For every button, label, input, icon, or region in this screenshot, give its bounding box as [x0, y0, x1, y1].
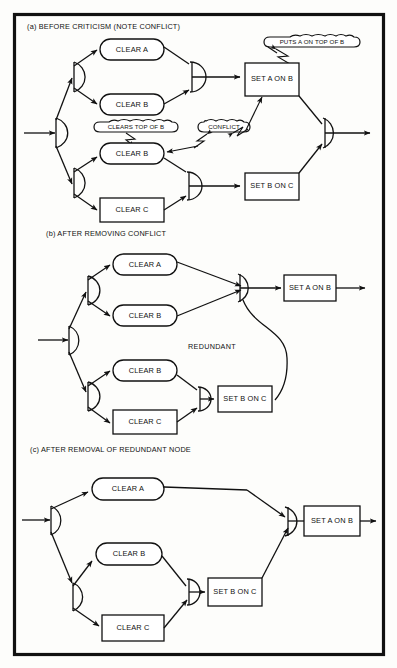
cloud-a-puts-label: PUTS A ON TOP OF B	[280, 38, 345, 45]
panel-a-edge-set-b-final	[299, 144, 322, 173]
panel-c-edge-root-lower	[51, 532, 72, 583]
node-c-set-a-on-b-label: SET A ON B	[311, 516, 353, 525]
node-b-set-b-on-c-label: SET B ON C	[223, 394, 267, 403]
panel-c-edge-clear-b-join	[162, 556, 186, 586]
panel-b-edge-clear-a-join	[177, 262, 241, 286]
panel-a-upper-split-arc	[74, 62, 85, 92]
panel-a-edge-root-upper	[56, 78, 72, 120]
panel-b-edge-to-clear-c	[88, 407, 110, 423]
node-b-clear-b-upper-label: CLEAR B	[129, 311, 162, 320]
plan-network-diagram: (a) BEFORE CRITICISM (NOTE CONFLICT) CLE…	[0, 0, 397, 668]
panel-b-edge-clear-c-join	[177, 408, 197, 422]
panel-a-edge-set-a-final	[299, 96, 322, 124]
node-c-clear-a-label: CLEAR A	[112, 484, 144, 493]
node-c-set-b-on-c-label: SET B ON C	[213, 587, 257, 596]
panel-b-edge-to-clear-b1	[88, 301, 110, 316]
node-c-clear-b-label: CLEAR B	[113, 549, 146, 558]
pointer-a-puts-tail	[268, 47, 277, 53]
panel-c-edge-set-b-final	[262, 528, 288, 578]
panel-a-edge-to-clear-b1	[74, 88, 97, 104]
panel-a-edge-clear-c-join	[164, 196, 186, 210]
node-b-set-a-on-b-label: SET A ON B	[289, 283, 331, 292]
panel-c-edge-clear-a-join	[247, 490, 285, 517]
panel-c-edge-clear-a-run	[164, 487, 247, 490]
panel-b-root-split-arc	[69, 326, 79, 355]
panel-b-edge-root-upper	[69, 292, 86, 329]
panel-a-title: (a) BEFORE CRITICISM (NOTE CONFLICT)	[27, 22, 180, 31]
panel-b-title: (b) AFTER REMOVING CONFLICT	[46, 229, 166, 238]
panel-b-edge-to-clear-a	[88, 265, 110, 280]
node-c-clear-c-label: CLEAR C	[116, 623, 150, 632]
panel-c-edge-to-clear-b	[73, 561, 92, 586]
node-a-clear-b-upper-label: CLEAR B	[116, 100, 149, 109]
panel-b-lower-split-arc	[88, 382, 100, 411]
node-a-set-a-on-b-label: SET A ON B	[251, 74, 293, 83]
figure-border	[15, 15, 384, 655]
panel-b-redundant-curve	[243, 300, 287, 400]
panel-b-edge-to-clear-b2	[88, 371, 110, 386]
panel-c-edge-clear-c-join	[164, 600, 187, 628]
panel-c-edge-root-to-clear-a	[51, 492, 88, 509]
panel-b-edge-root-lower	[69, 352, 86, 392]
node-b-clear-c-label: CLEAR C	[128, 417, 162, 426]
panel-a-edge-to-clear-b2	[74, 157, 97, 172]
cloud-a-conflict-label: CONFLICT	[208, 123, 240, 130]
node-a-clear-c-label: CLEAR C	[115, 205, 149, 214]
panel-c-lower-split-arc	[73, 583, 83, 611]
panel-c-title: (c) AFTER REMOVAL OF REDUNDANT NODE	[30, 445, 191, 454]
panel-b-edge-clear-b2-join	[177, 375, 197, 390]
panel-c-root-split-arc	[51, 506, 61, 535]
pointer-a-conflict-to-set-a	[246, 97, 262, 130]
panel-a-edge-clear-b2-join	[164, 158, 186, 172]
panel-a-edge-to-clear-a	[74, 50, 97, 66]
node-a-clear-b-lower-label: CLEAR B	[116, 149, 149, 158]
node-a-set-b-on-c-label: SET B ON C	[250, 181, 294, 190]
panel-a-edge-root-lower	[56, 146, 72, 184]
panel-a-edge-to-clear-c	[74, 194, 97, 210]
panel-a-edge-clear-a-join	[164, 47, 189, 64]
cloud-a-clears-label: CLEARS TOP OF B	[108, 123, 165, 130]
panel-b-edge-clear-b1-join	[177, 290, 241, 316]
panel-a-root-split-arc	[56, 118, 68, 148]
node-b-clear-a-label: CLEAR A	[129, 260, 161, 269]
annotation-b-redundant: REDUNDANT	[188, 342, 236, 351]
node-b-clear-b-lower-label: CLEAR B	[129, 366, 162, 375]
figure-canvas: (a) BEFORE CRITICISM (NOTE CONFLICT) CLE…	[0, 0, 397, 668]
panel-b-upper-split-arc	[88, 276, 100, 305]
panel-c-edge-to-clear-c	[73, 608, 99, 626]
pointer-a-conflict-to-clear-b2	[167, 146, 198, 152]
pointer-a-puts-to-set-a	[276, 49, 290, 64]
panel-a-lower-split-arc	[74, 168, 85, 198]
node-a-clear-a-label: CLEAR A	[116, 45, 148, 54]
panel-a-edge-clear-b1-join	[164, 90, 189, 104]
